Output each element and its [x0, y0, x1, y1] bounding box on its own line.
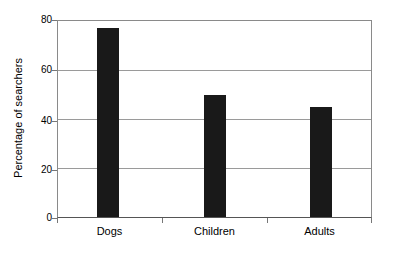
bar-dogs [97, 28, 119, 217]
x-tick-mark-1 [162, 218, 163, 223]
y-tick-label-80: 80 [12, 15, 52, 25]
y-tick-label-60: 60 [12, 65, 52, 75]
y-axis-ticks: 80 60 40 20 0 [0, 0, 52, 255]
x-category-label-children: Children [162, 224, 267, 238]
x-tick-mark-end [371, 218, 372, 223]
y-tick-label-20: 20 [12, 165, 52, 175]
x-category-label-dogs: Dogs [57, 224, 162, 238]
bar-children [204, 95, 226, 218]
x-tick-mark-2 [267, 218, 268, 223]
x-category-label-adults: Adults [267, 224, 372, 238]
bar-adults [310, 107, 332, 217]
y-tick-label-40: 40 [12, 116, 52, 126]
plot-area [57, 20, 372, 218]
x-tick-mark-start [57, 218, 58, 223]
bar-chart-figure: Percentage of searchers 80 60 40 20 0 Do… [0, 0, 393, 255]
y-tick-label-0: 0 [12, 213, 52, 223]
